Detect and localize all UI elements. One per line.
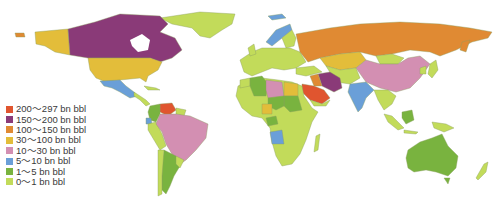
region-cuba bbox=[144, 86, 160, 90]
region-alaska bbox=[35, 29, 70, 55]
legend-item: 200～297 bn bbl bbox=[6, 104, 86, 114]
region-australia bbox=[406, 134, 458, 176]
region-sumatra bbox=[384, 114, 404, 130]
region-egypt bbox=[284, 82, 298, 96]
region-iceland bbox=[268, 14, 286, 20]
region-gabon bbox=[266, 116, 278, 126]
region-madagascar bbox=[314, 134, 320, 152]
legend-swatch-0-1 bbox=[6, 178, 13, 185]
legend-item: 30～100 bn bbl bbox=[6, 135, 86, 145]
legend-swatch-150-200 bbox=[6, 116, 13, 123]
region-borneo bbox=[402, 110, 414, 124]
region-mexico bbox=[100, 80, 138, 98]
legend-swatch-10-30 bbox=[6, 147, 13, 154]
region-central-america bbox=[134, 92, 150, 106]
region-morocco bbox=[240, 78, 250, 88]
region-greenland bbox=[160, 12, 235, 38]
region-new-zealand bbox=[476, 162, 488, 180]
legend-swatch-100-150 bbox=[6, 126, 13, 133]
legend-label: 0～1 bn bbl bbox=[16, 177, 65, 187]
region-canada bbox=[68, 14, 182, 62]
region-southeast-asia bbox=[374, 90, 396, 110]
region-papua bbox=[432, 122, 454, 132]
region-usa bbox=[88, 58, 162, 82]
legend-swatch-30-100 bbox=[6, 137, 13, 144]
legend-item: 5～10 bn bbl bbox=[6, 156, 86, 166]
region-japan bbox=[428, 60, 438, 78]
region-india bbox=[348, 82, 374, 112]
legend-label: 30～100 bn bbl bbox=[16, 135, 81, 145]
legend-swatch-1-5 bbox=[6, 168, 13, 175]
legend-label: 5～10 bn bbl bbox=[16, 156, 70, 166]
legend-label: 200～297 bn bbl bbox=[16, 104, 86, 114]
legend-swatch-200-297 bbox=[6, 106, 13, 113]
region-angola bbox=[270, 130, 284, 144]
legend-item: 0～1 bn bbl bbox=[6, 177, 86, 187]
region-java bbox=[404, 130, 418, 134]
legend-swatch-5-10 bbox=[6, 158, 13, 165]
region-mongolia bbox=[376, 54, 404, 64]
legend: 200～297 bn bbl 150～200 bn bbl 100～150 bn… bbox=[6, 104, 86, 187]
region-tasmania bbox=[444, 178, 450, 184]
region-nigeria bbox=[262, 104, 272, 114]
region-libya bbox=[266, 80, 284, 98]
region-aleutian bbox=[15, 33, 25, 37]
